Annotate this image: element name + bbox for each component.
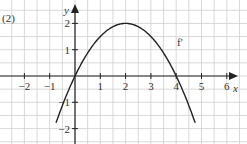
y-tick-label: 1	[65, 44, 71, 56]
curve-label: f'	[177, 36, 183, 48]
grid	[0, 0, 247, 144]
y-axis-arrow-icon	[71, 4, 79, 13]
x-tick-label: 3	[148, 80, 154, 92]
y-tick-label: 2	[65, 17, 71, 29]
x-axis-label: x	[232, 82, 238, 94]
x-tick-label: −1	[44, 80, 56, 92]
panel-label: (2)	[2, 12, 15, 25]
x-axis-arrow-icon	[229, 72, 238, 80]
x-tick-label: 1	[98, 80, 104, 92]
x-tick-label: 2	[123, 80, 129, 92]
y-axis-label: y	[63, 4, 69, 16]
x-tick-label: 5	[199, 80, 205, 92]
x-tick-label: 6	[224, 80, 230, 92]
y-tick-label: −2	[58, 123, 70, 135]
x-tick-label: −2	[19, 80, 31, 92]
chart-canvas: −2−112345621−1−2 (2) f' x y	[0, 0, 247, 144]
